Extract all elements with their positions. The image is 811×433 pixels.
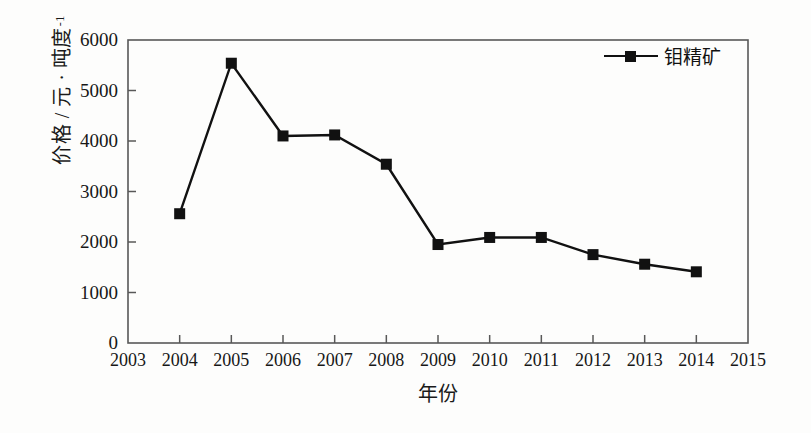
data-point-marker bbox=[381, 159, 392, 170]
x-axis-title: 年份 bbox=[128, 378, 748, 407]
y-tick-label: 6000 bbox=[58, 30, 118, 49]
x-tick-label: 2015 bbox=[718, 350, 778, 370]
legend-entry-label: 钼精矿 bbox=[664, 42, 721, 69]
legend-line-marker-icon bbox=[604, 49, 658, 63]
y-tick-label: 4000 bbox=[58, 131, 118, 150]
data-point-marker bbox=[226, 58, 237, 69]
plot-frame bbox=[128, 40, 748, 343]
x-axis-ticks bbox=[180, 335, 697, 343]
data-point-marker bbox=[174, 208, 185, 219]
data-point-marker bbox=[484, 232, 495, 243]
data-point-marker bbox=[639, 259, 650, 270]
chart-figure: 价格 / 元 · 吨度-1 0100020003000400050006000 … bbox=[0, 0, 811, 433]
data-point-marker bbox=[329, 129, 340, 140]
chart-legend: 钼精矿 bbox=[604, 42, 721, 69]
y-axis-ticks bbox=[128, 91, 136, 293]
data-point-marker bbox=[536, 232, 547, 243]
y-tick-label: 1000 bbox=[58, 283, 118, 302]
data-point-marker bbox=[588, 249, 599, 260]
data-point-marker bbox=[433, 239, 444, 250]
data-point-marker bbox=[278, 130, 289, 141]
y-tick-label: 2000 bbox=[58, 232, 118, 251]
y-tick-label: 3000 bbox=[58, 182, 118, 201]
data-point-marker bbox=[691, 266, 702, 277]
data-markers-series-1 bbox=[174, 58, 702, 278]
y-tick-label: 5000 bbox=[58, 81, 118, 100]
